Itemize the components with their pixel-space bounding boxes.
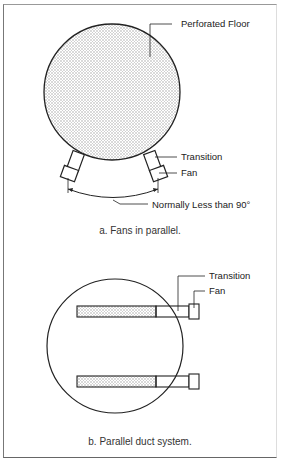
transition-label-a: Transition (181, 151, 222, 162)
fan-label-b: Fan (209, 285, 225, 296)
lower-fan (189, 374, 199, 389)
perforated-floor-label: Perforated Floor (181, 18, 250, 29)
perforated-floor-bin (44, 24, 180, 160)
diagram-canvas: Perforated Floor Transition Fan Normally… (0, 0, 281, 462)
lower-perforated-duct (77, 376, 156, 387)
left-fan-assembly (60, 149, 84, 181)
bin-outline (47, 279, 183, 413)
angle-arc (68, 189, 158, 198)
right-fan-assembly (144, 149, 168, 181)
caption-a: a. Fans in parallel. (99, 225, 181, 236)
fan-label-a: Fan (181, 167, 197, 178)
upper-perforated-duct (77, 306, 156, 317)
parallel-duct-figure: Transition Fan b. Parallel duct system. (47, 270, 250, 447)
caption-b: b. Parallel duct system. (88, 436, 191, 447)
fans-in-parallel-figure: Perforated Floor Transition Fan Normally… (44, 18, 251, 236)
upper-transition (156, 306, 189, 317)
angle-label: Normally Less than 90° (152, 199, 251, 210)
transition-label-b: Transition (209, 270, 250, 281)
